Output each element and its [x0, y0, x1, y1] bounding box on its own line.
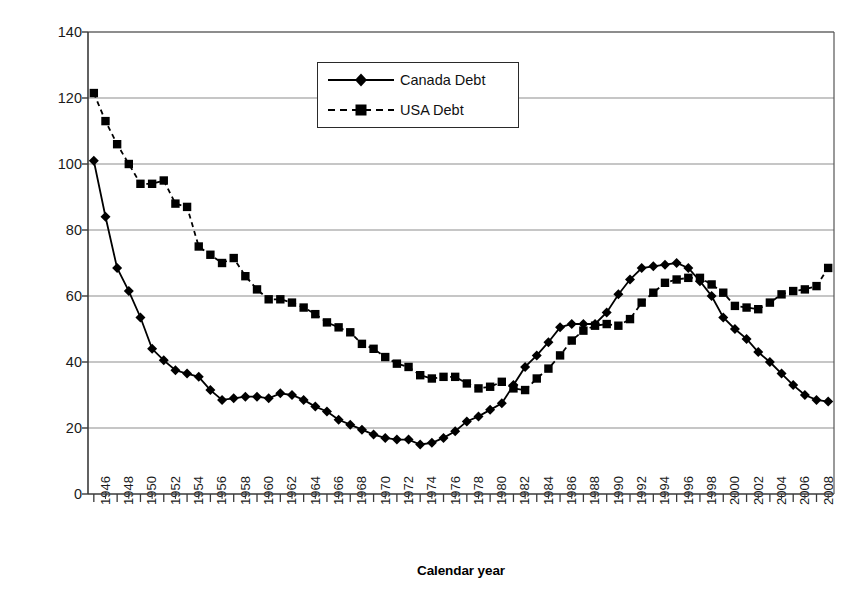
- series-usa-debt: [90, 89, 833, 394]
- x-axis-title: Calendar year: [88, 563, 834, 578]
- x-tick-marks: [94, 494, 828, 502]
- legend-item-usa-debt: USA Debt: [318, 96, 520, 124]
- y-tick-marks: [82, 32, 88, 494]
- legend-item-canada-debt: Canada Debt: [318, 66, 520, 94]
- legend-swatch-canada-debt: [326, 68, 396, 92]
- legend-swatch-usa-debt: [326, 98, 396, 122]
- legend-label-usa-debt: USA Debt: [400, 102, 464, 118]
- legend: Canada Debt USA Debt: [317, 62, 519, 128]
- series-canada-debt: [89, 156, 833, 450]
- legend-label-canada-debt: Canada Debt: [400, 72, 485, 88]
- debt-to-gdp-line-chart: Percentage of GNP(CA) or GDP(USA) 020406…: [0, 0, 857, 595]
